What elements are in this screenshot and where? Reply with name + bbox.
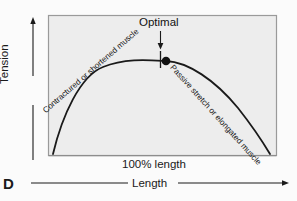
figure-graphic [0,0,297,201]
x-axis-title: Length [132,177,167,189]
panel-letter: D [3,176,14,192]
length-tension-figure: Optimal Contractured or shortened muscle… [0,0,297,201]
plot-panel-background [49,16,277,156]
optimal-point-marker [162,57,171,66]
y-axis-arrow-head [30,17,35,24]
y-axis-title: Tension [0,14,10,84]
x-axis-arrow-head [282,180,289,185]
optimal-label: Optimal [139,16,179,28]
reference-length-label: 100% length [122,158,186,170]
